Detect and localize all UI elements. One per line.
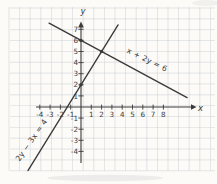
page-shadow-bottom: [47, 175, 163, 181]
y-axis-letter: y: [79, 6, 86, 16]
svg-text:-2: -2: [71, 125, 78, 134]
svg-text:4: 4: [120, 110, 125, 119]
svg-text:-1: -1: [71, 114, 78, 123]
screenshot-root: -4-3-2-112345678-4-3-2-11234567 x y x + …: [0, 0, 217, 184]
svg-text:-3: -3: [71, 136, 78, 145]
svg-text:2: 2: [73, 80, 78, 89]
svg-text:1: 1: [89, 110, 94, 119]
svg-text:-3: -3: [47, 110, 54, 119]
paper-background: [0, 0, 217, 184]
svg-text:-4: -4: [71, 147, 79, 156]
svg-text:7: 7: [73, 25, 78, 34]
svg-text:5: 5: [130, 110, 135, 119]
x-axis-letter: x: [197, 103, 204, 113]
svg-text:-4: -4: [36, 110, 44, 119]
svg-text:2: 2: [99, 110, 104, 119]
svg-text:5: 5: [73, 47, 78, 56]
svg-text:3: 3: [110, 110, 115, 119]
graph-canvas: -4-3-2-112345678-4-3-2-11234567 x y x + …: [0, 0, 217, 184]
svg-text:7: 7: [151, 110, 156, 119]
svg-text:3: 3: [73, 69, 78, 78]
svg-text:6: 6: [141, 110, 146, 119]
svg-text:8: 8: [161, 110, 166, 119]
svg-text:4: 4: [73, 58, 78, 67]
